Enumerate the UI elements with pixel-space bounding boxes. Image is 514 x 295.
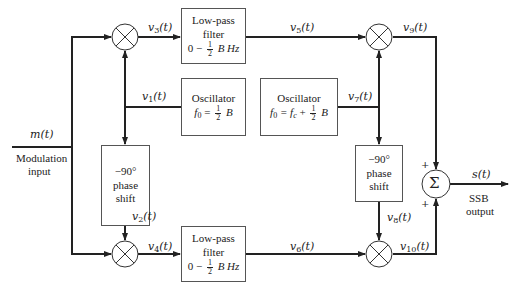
frac-den: 2 [207,268,213,276]
lowpass-filter-top: Low-pass filter 0 − 12 B Hz [181,8,246,64]
lpf-top-fraction: 12 [207,41,213,58]
oscillator-2: Oscillator f0 = fc + 12 B [260,78,338,136]
mixer-top-right [366,24,392,50]
lpf-top-line2: filter [203,28,224,42]
lpf-bottom-line1: Low-pass [192,232,235,246]
osc1-equation: f0 = 12 B [194,105,232,122]
phase-shift-right: −90° phase shift [355,145,403,202]
signal-v8: v8(t) [387,212,411,225]
lpf-top-line1: Low-pass [192,14,235,28]
wiring [0,0,514,295]
input-caption-2: input [28,166,51,177]
output-caption-1: SSB [469,193,489,204]
frac-den: 2 [215,114,221,122]
lpf-bottom-line2: filter [203,246,224,260]
lpf-bottom-range-suffix: B Hz [218,260,240,272]
v-arg: (t) [359,90,372,103]
osc2-eq-fc: = f [277,106,293,118]
input-signal-label: m(t) [30,129,53,140]
signal-v1: v1(t) [142,91,166,104]
lowpass-filter-bottom: Low-pass filter 0 − 12 B Hz [181,226,246,282]
summer-plus-top: + [421,160,429,170]
osc2-fraction: 12 [310,105,316,122]
output-caption-2: output [466,206,494,217]
phase-right-line1: −90° [368,153,390,167]
mixer-bottom-right [366,241,392,267]
phase-left-line3: shift [116,192,136,206]
signal-v10: v10(t) [400,241,429,254]
signal-v9: v9(t) [403,22,427,35]
phase-right-line3: shift [369,180,389,194]
v-arg: (t) [159,21,172,34]
signal-v6: v6(t) [290,241,314,254]
oscillator-1: Oscillator f0 = 12 B [181,78,246,136]
v-arg: (t) [416,240,429,253]
v-arg: (t) [398,211,411,224]
phase-left-line1: −90° [115,165,137,179]
mixer-bottom-left [112,241,138,267]
input-caption-1: Modulation [16,153,67,164]
summer-sigma: Σ [429,176,440,191]
phase-right-line2: phase [366,167,391,181]
lpf-bottom-fraction: 12 [207,259,213,276]
v-arg: (t) [153,90,166,103]
summer-plus-bottom: + [421,199,429,209]
v-arg: (t) [301,21,314,34]
signal-v7: v7(t) [348,91,372,104]
mixer-top-left [112,24,138,50]
lpf-top-range-suffix: B Hz [218,42,240,54]
osc2-plus: + [297,106,309,118]
lpf-bottom-range-prefix: 0 − [188,260,202,272]
lpf-bottom-range: 0 − 12 B Hz [188,259,240,276]
signal-v5: v5(t) [290,22,314,35]
frac-den: 2 [207,50,213,58]
osc1-fraction: 12 [215,105,221,122]
osc1-eq: = [201,106,213,118]
output-signal-label: s(t) [472,169,491,180]
input-to-top-mixer [72,37,111,147]
v-arg: (t) [301,240,314,253]
signal-v3: v3(t) [148,22,172,35]
lpf-top-range-prefix: 0 − [188,42,202,54]
osc2-B: B [321,106,328,118]
lpf-top-range: 0 − 12 B Hz [188,41,240,58]
signal-v2: v2(t) [132,211,156,224]
phase-left-line2: phase [113,179,138,193]
osc1-title: Oscillator [192,92,235,106]
signal-v4: v4(t) [148,241,172,254]
osc2-equation: f0 = fc + 12 B [270,105,328,122]
v-arg: (t) [143,210,156,223]
v-arg: (t) [159,240,172,253]
v-arg: (t) [414,21,427,34]
v-sub: 10 [406,245,416,254]
osc1-B: B [226,106,233,118]
osc2-title: Oscillator [277,92,320,106]
frac-den: 2 [310,114,316,122]
ssb-modulator-diagram: Σ + + Low-pass filter 0 − 12 B Hz Low-pa… [0,0,514,295]
